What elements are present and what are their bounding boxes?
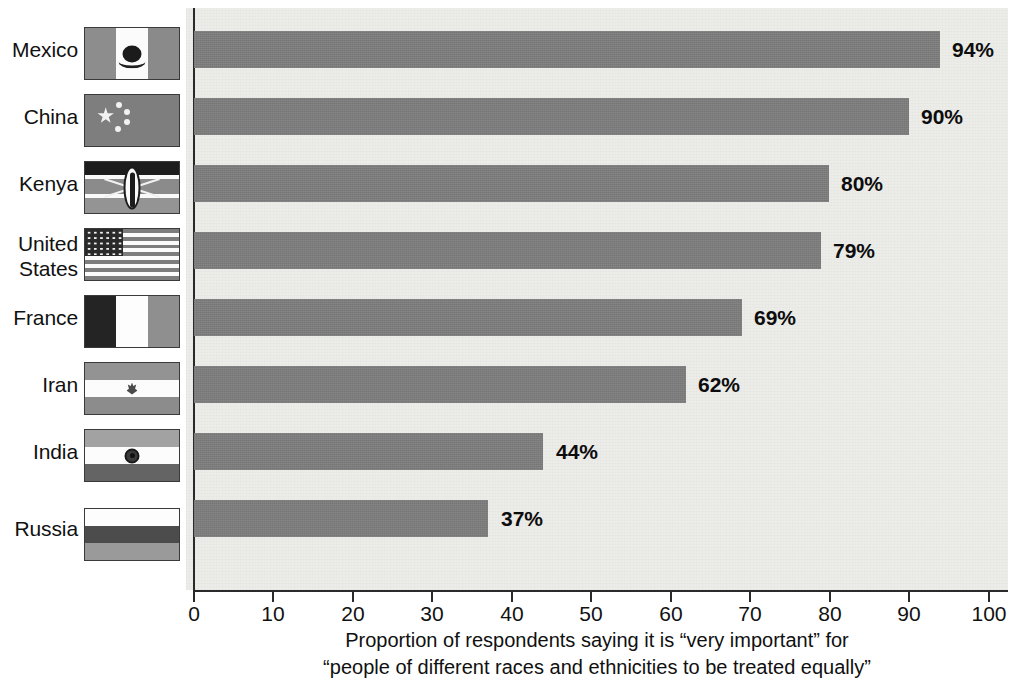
country-label-kenya: Kenya: [0, 172, 78, 196]
india-flag: [84, 429, 180, 482]
country-label-line1: Mexico: [0, 38, 78, 62]
value-label-iran: 62%: [698, 366, 740, 403]
chart-row-kenya: Kenya 80%: [0, 156, 1021, 223]
bar-india: [194, 433, 543, 470]
chart-row-russia: Russia 37%: [0, 491, 1021, 558]
tick-label-60: 60: [641, 601, 701, 627]
country-label-line1: India: [0, 440, 78, 464]
country-label-line2: States: [0, 256, 78, 281]
tick-label-10: 10: [243, 601, 303, 627]
bar-russia: [194, 500, 488, 537]
country-label-iran: Iran: [0, 373, 78, 397]
france-flag: [84, 295, 180, 348]
country-label-line1: Kenya: [0, 172, 78, 196]
chart-row-france: France 69%: [0, 290, 1021, 357]
value-label-united-states: 79%: [833, 232, 875, 269]
country-label-russia: Russia: [0, 517, 78, 541]
kenya-flag: [84, 161, 180, 214]
mexico-flag: [84, 27, 180, 80]
x-axis-line: [193, 590, 1008, 592]
china-flag: [84, 94, 180, 147]
chart-row-united-states: United States 79%: [0, 223, 1021, 290]
chart-row-iran: Iran 62%: [0, 357, 1021, 424]
united-states-flag: [84, 228, 180, 281]
value-label-mexico: 94%: [952, 31, 994, 68]
tick-label-100: 100: [959, 601, 1019, 627]
chart-row-mexico: Mexico 94%: [0, 22, 1021, 89]
country-label-line1: United: [0, 231, 78, 256]
chart-row-china: China 90%: [0, 89, 1021, 156]
tick-label-90: 90: [879, 601, 939, 627]
tick-label-50: 50: [561, 601, 621, 627]
tick-label-70: 70: [720, 601, 780, 627]
country-label-line1: France: [0, 306, 78, 330]
country-label-line1: Iran: [0, 373, 78, 397]
bar-iran: [194, 366, 686, 403]
country-label-india: India: [0, 440, 78, 464]
caption-line-2: “people of different races and ethniciti…: [186, 654, 1008, 681]
value-label-china: 90%: [921, 98, 963, 135]
tick-label-30: 30: [402, 601, 462, 627]
iran-flag: [84, 362, 180, 415]
country-label-mexico: Mexico: [0, 38, 78, 62]
tick-label-40: 40: [482, 601, 542, 627]
chart-row-india: India 44%: [0, 424, 1021, 491]
bar-mexico: [194, 31, 940, 68]
tick-label-20: 20: [323, 601, 383, 627]
bar-chart: Mexico 94% China 90% Kenya: [0, 0, 1021, 689]
bar-kenya: [194, 165, 829, 202]
country-label-france: France: [0, 306, 78, 330]
value-label-russia: 37%: [501, 500, 543, 537]
caption-line-1: Proportion of respondents saying it is “…: [186, 627, 1008, 654]
tick-label-80: 80: [800, 601, 860, 627]
value-label-kenya: 80%: [841, 165, 883, 202]
country-label-line1: China: [0, 105, 78, 129]
country-label-united-states: United States: [0, 231, 78, 281]
axis-caption: Proportion of respondents saying it is “…: [186, 627, 1008, 681]
tick-label-0: 0: [164, 601, 224, 627]
truncated-title: [0, 0, 1021, 7]
bar-france: [194, 299, 742, 336]
value-label-france: 69%: [754, 299, 796, 336]
value-label-india: 44%: [556, 433, 598, 470]
russia-flag: [84, 508, 180, 561]
bar-united-states: [194, 232, 821, 269]
country-label-line1: Russia: [0, 517, 78, 541]
bar-china: [194, 98, 909, 135]
country-label-china: China: [0, 105, 78, 129]
